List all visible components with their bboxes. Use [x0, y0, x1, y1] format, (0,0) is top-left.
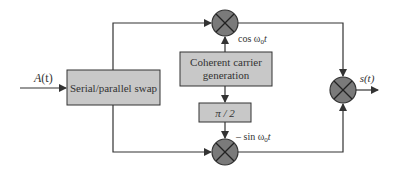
carrier-label-line1: Coherent carrier: [190, 56, 262, 68]
sin-carrier-label: – sin ω0t: [235, 131, 271, 144]
coherent-carrier-block: Coherent carrier generation: [180, 52, 272, 86]
carrier-label-line2: generation: [203, 69, 250, 81]
output-multiplier-icon: [330, 77, 356, 103]
qam-modulator-diagram: A(t) Serial/parallel swap Coherent carri…: [0, 0, 398, 173]
output-label: s(t): [360, 72, 375, 85]
input-label: A(t): [33, 71, 53, 85]
bottom-to-output-line: [238, 104, 343, 152]
lower-branch-line: [113, 105, 211, 152]
phase-shift-block: π / 2: [199, 103, 251, 122]
serial-parallel-label: Serial/parallel swap: [70, 82, 158, 94]
top-multiplier-icon: [212, 10, 238, 36]
phase-shift-label: π / 2: [215, 107, 235, 119]
cos-carrier-label: cos ω0t: [238, 33, 267, 46]
serial-parallel-swap-block: Serial/parallel swap: [67, 70, 160, 105]
bottom-multiplier-icon: [212, 139, 238, 165]
